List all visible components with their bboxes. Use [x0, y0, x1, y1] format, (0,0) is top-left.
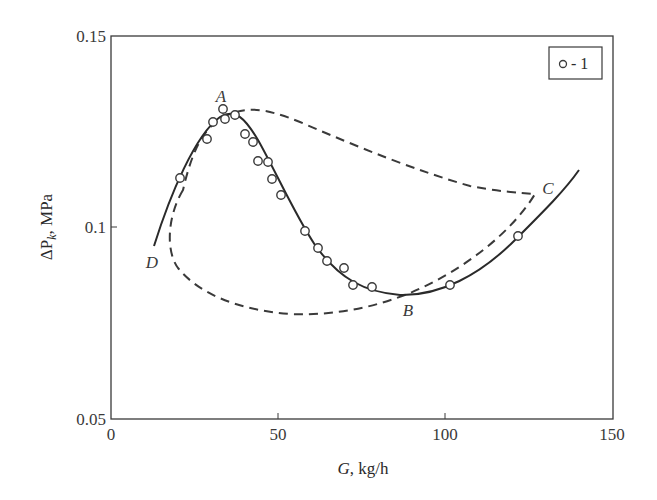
plot-frame	[111, 36, 613, 419]
y-axis-label-unit: , MPa	[37, 193, 56, 234]
legend: - 1	[549, 47, 602, 79]
data-point	[514, 232, 522, 240]
data-point	[241, 130, 249, 138]
legend-label: - 1	[571, 55, 588, 72]
y-tick-label-0.15: 0.15	[76, 27, 106, 46]
x-axis-label-var: G	[337, 459, 349, 478]
data-point	[249, 138, 257, 146]
x-axis-label-unit: , kg/h	[350, 459, 389, 478]
data-markers-series-1	[176, 105, 522, 291]
data-point	[254, 157, 262, 165]
data-point	[314, 244, 322, 252]
chart-canvas: 0 50 100 150 G, kg/h 0.05 0.1 0.15 ΔPk, …	[0, 0, 657, 500]
x-tick-label-100: 100	[432, 425, 458, 444]
data-point	[221, 115, 229, 123]
data-point	[446, 281, 454, 289]
legend-circle-marker-icon	[560, 61, 567, 68]
data-point	[323, 257, 331, 265]
data-point	[277, 191, 285, 199]
data-point	[231, 111, 239, 119]
data-point	[368, 283, 376, 291]
annotation-D: D	[145, 253, 159, 272]
solid-curve	[154, 114, 579, 295]
x-tick-label-50: 50	[270, 425, 287, 444]
data-point	[209, 118, 217, 126]
annotation-B: B	[403, 301, 414, 320]
data-point	[349, 281, 357, 289]
x-axis: 0 50 100 150 G, kg/h	[107, 413, 625, 478]
data-point	[203, 135, 211, 143]
x-axis-label: G, kg/h	[337, 459, 389, 478]
data-point	[219, 105, 227, 113]
annotation-A: A	[215, 87, 227, 106]
data-point	[264, 158, 272, 166]
y-axis-label-delta: ΔP	[37, 240, 56, 260]
y-axis: 0.05 0.1 0.15 ΔPk, MPa	[37, 27, 117, 429]
x-tick-label-150: 150	[599, 425, 625, 444]
x-tick-label-0: 0	[107, 425, 116, 444]
data-point	[176, 174, 184, 182]
y-tick-label-0.05: 0.05	[76, 410, 106, 429]
data-point	[268, 175, 276, 183]
y-axis-label: ΔPk, MPa	[37, 193, 59, 260]
data-point	[340, 264, 348, 272]
data-point	[301, 227, 309, 235]
y-tick-label-0.1: 0.1	[85, 218, 106, 237]
annotation-C: C	[542, 179, 554, 198]
